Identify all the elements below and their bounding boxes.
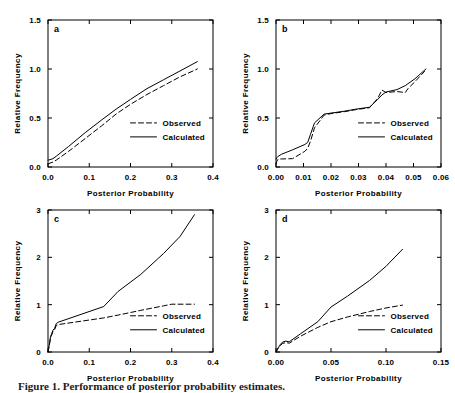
x-tick-label: 0.05 [405,173,422,182]
chart-a: 0.00.10.20.30.40.00.51.01.5aPosterior Pr… [0,0,228,196]
panel-letter: b [282,24,288,34]
chart-d: 0.000.050.100.150123dPosterior Probabili… [228,196,455,393]
panel-d: 0.000.050.100.150123dPosterior Probabili… [228,196,455,393]
series-observed [48,69,197,164]
series-observed [276,71,425,164]
x-tick-label: 0.4 [207,358,219,367]
y-axis-title: Relative Frequency [13,53,22,134]
x-tick-label: 0.05 [323,358,340,367]
panel-b: 0.000.010.020.030.040.050.060.00.51.01.5… [228,0,455,196]
y-tick-label: 1.0 [29,65,41,74]
x-tick-label: 0.03 [350,173,367,182]
y-tick-label: 0 [36,348,41,357]
y-tick-label: 1 [36,301,41,310]
x-tick-label: 0.0 [42,358,54,367]
y-tick-label: 2 [36,253,41,262]
y-tick-label: 0.5 [257,114,269,123]
x-tick-label: 0.3 [166,358,178,367]
y-tick-label: 1.5 [29,16,41,25]
y-tick-label: 2 [264,253,269,262]
x-tick-label: 0.06 [433,173,450,182]
y-axis-title: Relative Frequency [13,241,22,322]
series-calculated [48,62,197,160]
legend-label-observed: Observed [391,119,430,128]
x-tick-label: 0.10 [378,358,395,367]
x-tick-label: 0.3 [166,173,178,182]
legend-label-calculated: Calculated [391,326,433,335]
legend-label-calculated: Calculated [391,133,433,142]
x-tick-label: 0.00 [268,173,285,182]
x-tick-label: 0.1 [83,358,95,367]
panel-letter: c [54,214,59,224]
y-tick-label: 1.0 [257,65,269,74]
chart-c: 0.00.10.20.30.40123cPosterior Probabilit… [0,196,228,393]
y-tick-label: 0 [264,348,269,357]
panel-letter: a [54,24,60,34]
legend-label-observed: Observed [391,312,430,321]
legend-label-calculated: Calculated [163,326,205,335]
x-tick-label: 0.15 [433,358,450,367]
y-tick-label: 0.0 [29,163,41,172]
plot-frame [48,20,213,167]
y-axis-title: Relative Frequency [241,241,250,322]
chart-b: 0.000.010.020.030.040.050.060.00.51.01.5… [228,0,455,196]
x-tick-label: 0.0 [42,173,54,182]
plot-frame [276,20,441,167]
x-tick-label: 0.1 [83,173,95,182]
legend-label-observed: Observed [163,312,202,321]
x-tick-label: 0.04 [378,173,395,182]
x-tick-label: 0.01 [295,173,312,182]
series-calculated [276,69,426,159]
x-tick-label: 0.2 [125,173,137,182]
series-calculated [276,249,403,352]
x-tick-label: 0.00 [268,358,285,367]
y-axis-title: Relative Frequency [241,53,250,134]
figure-caption: Figure 1. Performance of posterior proba… [18,379,448,393]
legend-label-calculated: Calculated [163,133,205,142]
series-observed [276,305,403,352]
x-tick-label: 0.02 [323,173,340,182]
panel-letter: d [282,214,288,224]
y-tick-label: 3 [264,206,269,215]
y-tick-label: 0.5 [29,114,41,123]
x-tick-label: 0.4 [207,173,219,182]
figure-container: 0.00.10.20.30.40.00.51.01.5aPosterior Pr… [0,0,455,393]
y-tick-label: 0.0 [257,163,269,172]
panel-c: 0.00.10.20.30.40123cPosterior Probabilit… [0,196,228,393]
y-tick-label: 1 [264,301,269,310]
y-tick-label: 1.5 [257,16,269,25]
y-tick-label: 3 [36,206,41,215]
panel-a: 0.00.10.20.30.40.00.51.01.5aPosterior Pr… [0,0,228,196]
x-tick-label: 0.2 [125,358,137,367]
legend-label-observed: Observed [163,119,202,128]
